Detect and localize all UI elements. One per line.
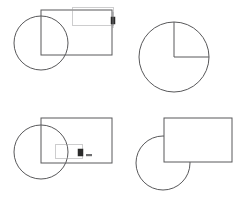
circle-shape-trimmed: [136, 136, 190, 190]
handle-pointer-mark: [86, 154, 92, 156]
panel-top-left-graphic: [0, 0, 123, 105]
rectangle-shape: [41, 118, 112, 163]
rectangle-shape: [41, 10, 112, 55]
marquee-drag-handle[interactable]: [78, 149, 83, 156]
rectangle-shape: [164, 118, 232, 162]
panel-bottom-right-graphic: [123, 105, 246, 209]
panel-bottom-left: [0, 105, 123, 209]
panel-bottom-left-graphic: [0, 105, 123, 209]
panel-top-right-graphic: [123, 0, 246, 105]
panel-bottom-right: [123, 105, 246, 209]
panel-top-left: [0, 0, 123, 105]
diagram-canvas: [0, 0, 246, 209]
panel-top-right: [123, 0, 246, 105]
